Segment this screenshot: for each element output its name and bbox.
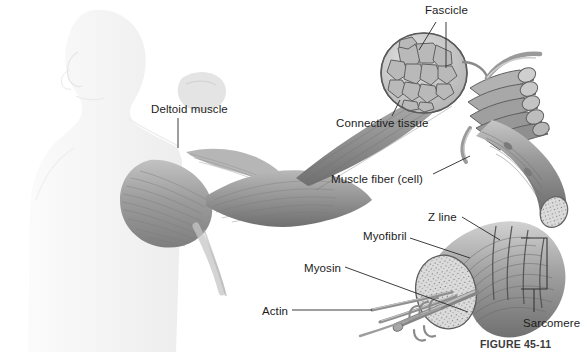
figure-root: Fascicle Deltoid muscle Connective tissu… <box>0 0 587 358</box>
label-connective-tissue: Connective tissue <box>336 118 428 130</box>
label-z-line: Z line <box>428 212 457 224</box>
label-myofibril: Myofibril <box>363 231 407 243</box>
muscle-fiber-leader <box>433 156 470 174</box>
label-muscle-fiber-cell: Muscle fiber (cell) <box>331 174 423 186</box>
label-deltoid-muscle: Deltoid muscle <box>151 104 228 116</box>
muscle-anatomy-illustration <box>0 0 587 358</box>
figure-caption: FIGURE 45-11 <box>480 338 551 350</box>
label-fascicle: Fascicle <box>425 5 468 17</box>
label-myosin: Myosin <box>304 263 341 275</box>
label-sarcomere: Sarcomere <box>523 318 580 330</box>
label-actin: Actin <box>262 306 288 318</box>
